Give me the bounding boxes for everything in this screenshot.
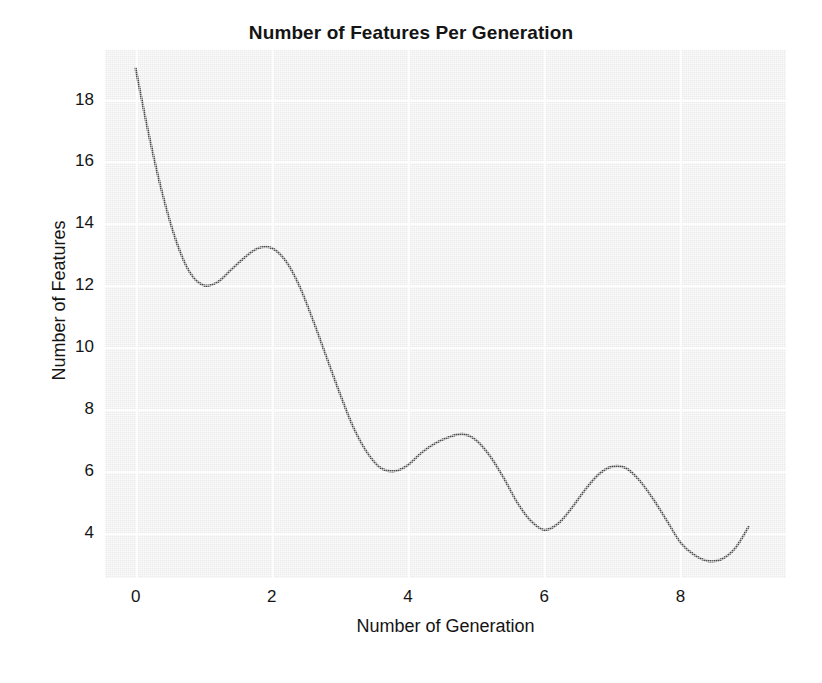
y-tick-label: 4	[44, 523, 94, 543]
y-axis-label: Number of Features	[49, 151, 70, 451]
x-axis-label: Number of Generation	[105, 616, 786, 637]
chart-title: Number of Features Per Generation	[0, 22, 822, 44]
line-series-svg	[105, 50, 786, 578]
x-tick-label: 4	[378, 587, 438, 607]
x-tick-label: 8	[650, 587, 710, 607]
x-tick-label: 2	[242, 587, 302, 607]
x-tick-label: 0	[106, 587, 166, 607]
line-series-path	[136, 69, 749, 562]
y-tick-label: 6	[44, 461, 94, 481]
x-tick-label: 6	[514, 587, 574, 607]
x-axis-tick-labels: 02468	[105, 587, 786, 613]
y-tick-label: 18	[44, 90, 94, 110]
chart-figure: Number of Features Per Generation 468101…	[0, 0, 822, 683]
plot-area	[105, 50, 786, 578]
